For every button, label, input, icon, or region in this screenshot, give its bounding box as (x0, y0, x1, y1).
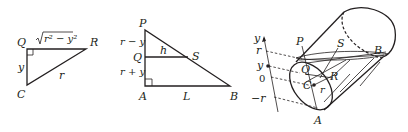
projection-y (269, 66, 300, 73)
label-s: S (337, 37, 345, 50)
label-b: B (373, 44, 382, 57)
label-radius-r: r (320, 84, 326, 95)
right-angle-mark (145, 79, 152, 86)
label-q: Q (17, 36, 26, 49)
label-l: L (182, 90, 190, 103)
label-radicand: r² − y² (44, 33, 77, 44)
label-p: P (138, 17, 147, 30)
triangle-qrc: Q R C y r r² − y² (17, 32, 98, 101)
label-r-plus-y: r + y (120, 66, 146, 77)
label-c: C (303, 79, 312, 92)
label-h: h (160, 44, 167, 57)
point-c (312, 83, 316, 87)
line-diag-3 (360, 62, 380, 86)
label-c: C (17, 88, 26, 101)
line-pa (302, 46, 317, 110)
triangle-pab-shape (145, 30, 230, 86)
tick-label-r: r (256, 44, 262, 57)
label-q: Q (301, 63, 310, 76)
label-hyp-r: r (59, 69, 65, 82)
label-a: A (138, 90, 147, 103)
label-s: S (192, 50, 200, 63)
triangle-qrc-shape (27, 49, 86, 85)
label-r: R (329, 70, 338, 83)
label-q: Q (133, 51, 142, 64)
arrow-up-icon (262, 36, 266, 42)
triangle-pab: P Q A B S r − y r + y h L (120, 17, 238, 103)
tick-label-y: y (256, 59, 264, 72)
label-r-minus-y: r − y (120, 36, 146, 47)
far-ellipse-front (344, 8, 395, 57)
label-p: P (295, 35, 304, 48)
projection-neg-r (274, 97, 318, 108)
tick-label-neg-r: −r (251, 92, 266, 105)
label-y: y (17, 61, 25, 74)
label-b: B (229, 90, 238, 103)
tick-label-zero: 0 (259, 73, 265, 84)
cylinder-figure: y r y 0 −r P S (251, 8, 395, 127)
y-axis (264, 38, 278, 112)
label-r: R (89, 36, 98, 49)
right-angle-mark (27, 49, 33, 55)
cylinder-bottom-edge (324, 57, 383, 110)
geometry-diagram: Q R C y r r² − y² P Q A B S r − y r + y … (0, 0, 408, 132)
label-a: A (313, 114, 322, 127)
